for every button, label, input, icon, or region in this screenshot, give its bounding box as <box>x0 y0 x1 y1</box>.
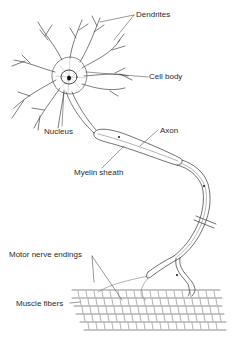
label-dendrites: Dendrites <box>136 10 170 19</box>
dendrites <box>12 16 132 130</box>
muscle-fibers <box>72 290 226 330</box>
label-myelin-sheath: Myelin sheath <box>74 168 123 177</box>
motor-nerve-endings <box>98 276 148 300</box>
label-motor-nerve-endings: Motor nerve endings <box>9 250 82 259</box>
label-nucleus: Nucleus <box>44 127 73 136</box>
label-muscle-fibers: Muscle fibers <box>16 299 63 308</box>
label-cell-body: Cell body <box>149 72 182 81</box>
label-axon: Axon <box>160 126 178 135</box>
